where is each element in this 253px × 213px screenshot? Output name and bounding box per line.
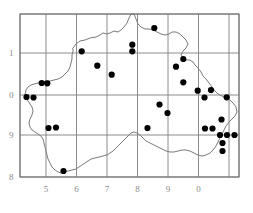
x-axis-tick-label-9: 9 [166, 185, 171, 194]
distribution-map-figure: 567890 1098 [0, 0, 253, 213]
map-canvas [0, 0, 253, 213]
data-point [224, 94, 230, 100]
y-axis-tick-label-8: 8 [9, 173, 14, 182]
data-point [219, 140, 225, 146]
data-point [94, 63, 100, 69]
x-axis-tick-label-5: 5 [44, 185, 49, 194]
y-axis-tick-label-0: 0 [9, 91, 14, 100]
data-point [180, 79, 186, 85]
data-point [129, 42, 135, 48]
y-axis-tick-label-1: 1 [9, 49, 14, 58]
data-point [202, 125, 208, 131]
data-point [164, 110, 170, 116]
data-point [45, 125, 51, 131]
data-point [23, 94, 29, 100]
data-point [129, 48, 135, 54]
data-point [30, 94, 36, 100]
data-point [144, 125, 150, 131]
data-point [109, 72, 115, 78]
data-point [156, 101, 162, 107]
data-point [79, 48, 85, 54]
data-point [231, 132, 237, 138]
data-point [208, 87, 214, 93]
data-point [180, 56, 186, 62]
data-point [173, 64, 179, 70]
data-point [44, 80, 50, 86]
x-axis-tick-label-6: 6 [74, 185, 79, 194]
y-axis-tick-label-9: 9 [9, 131, 14, 140]
data-point [219, 148, 225, 154]
data-point [60, 168, 66, 174]
data-point [195, 88, 201, 94]
data-point [209, 125, 215, 131]
data-point [39, 80, 45, 86]
data-point [218, 116, 224, 122]
x-axis-tick-label-0: 0 [196, 185, 201, 194]
data-point [201, 94, 207, 100]
data-point [53, 124, 59, 130]
data-point [224, 132, 230, 138]
data-point [151, 25, 157, 31]
x-axis-tick-label-8: 8 [135, 185, 140, 194]
data-point [217, 132, 223, 138]
x-axis-tick-label-7: 7 [105, 185, 110, 194]
